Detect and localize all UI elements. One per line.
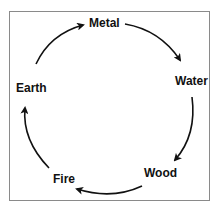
label-fire: Fire [53, 172, 75, 186]
arrow-earth-to-metal [36, 25, 83, 64]
label-water: Water [175, 74, 208, 88]
cycle-arrows [0, 0, 221, 215]
label-earth: Earth [16, 81, 47, 95]
label-wood: Wood [144, 166, 177, 180]
arrow-water-to-wood [175, 97, 193, 160]
arrow-wood-to-fire [77, 186, 142, 194]
arrow-metal-to-water [125, 24, 180, 60]
label-metal: Metal [89, 16, 120, 30]
arrow-fire-to-earth [25, 108, 49, 168]
